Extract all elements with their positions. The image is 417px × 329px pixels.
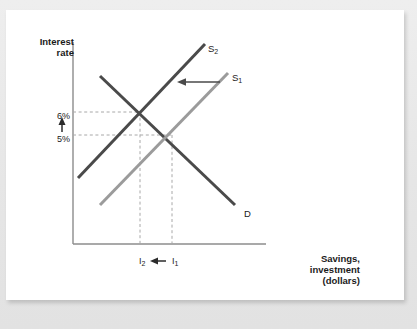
curve-label-s2-subscript: 2	[214, 48, 218, 55]
curve-label-s1-subscript: 1	[238, 77, 242, 84]
quantity-fall-arrow	[150, 258, 166, 265]
curve-label-d-text: D	[244, 208, 251, 219]
curve-label-s1: S1	[232, 72, 242, 83]
figure-page: Interest rate Savings, investment (dolla…	[0, 0, 417, 329]
curve-label-s2: S2	[208, 43, 218, 54]
curve-label-d: D	[244, 208, 251, 219]
x-tick-label-i2-subscript: 2	[142, 260, 146, 267]
supply-demand-figure: Interest rate Savings, investment (dolla…	[6, 10, 404, 300]
x-axis-title: Savings, investment (dollars)	[248, 253, 360, 287]
figure-card: Interest rate Savings, investment (dolla…	[6, 10, 404, 300]
x-tick-label-i2: I2	[139, 256, 145, 266]
y-tick-label-6-percent: 6%	[40, 111, 70, 122]
x-tick-label-i1-subscript: 1	[175, 260, 179, 267]
x-tick-label-i1: I1	[172, 256, 178, 266]
y-axis-title: Interest rate	[14, 36, 74, 58]
supply-shift-arrow	[177, 78, 220, 86]
y-tick-label-5-percent: 5%	[40, 134, 70, 145]
